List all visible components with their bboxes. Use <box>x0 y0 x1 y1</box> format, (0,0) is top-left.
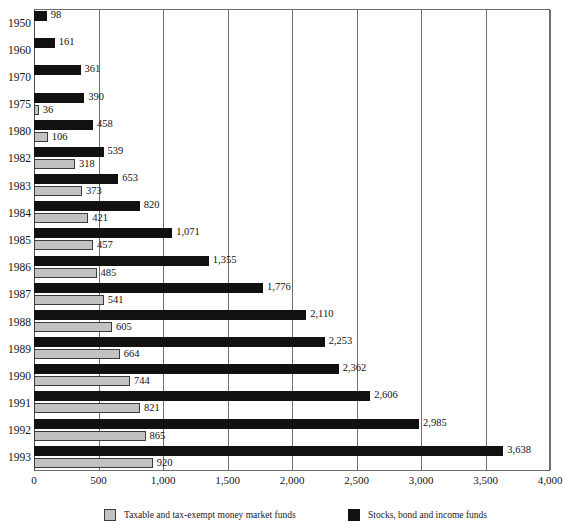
year-axis-label: 1985 <box>0 234 31 246</box>
bar-value-label: 2,253 <box>329 336 353 346</box>
bar-value-label: 1,355 <box>213 255 237 265</box>
legend-item-money-market: Taxable and tax-exempt money market fund… <box>104 509 296 521</box>
year-axis-label: 1950 <box>0 17 31 29</box>
bar-chart: 98161361390364581065393186533738204211,0… <box>0 0 563 531</box>
bar-stocks-bond-income <box>34 120 93 130</box>
bar-stocks-bond-income <box>34 147 104 157</box>
year-axis-label: 1980 <box>0 125 31 137</box>
bar-row: 1,355485 <box>34 254 550 281</box>
year-axis-label: 1989 <box>0 343 31 355</box>
bar-stocks-bond-income <box>34 65 81 75</box>
x-tick-label: 1,500 <box>215 474 240 487</box>
year-axis-label: 1984 <box>0 207 31 219</box>
bar-stocks-bond-income <box>34 93 84 103</box>
bar-stocks-bond-income <box>34 38 55 48</box>
bar-value-label: 36 <box>43 105 54 115</box>
bar-money-market <box>34 240 93 250</box>
bar-money-market <box>34 431 146 441</box>
bar-row: 361 <box>34 63 550 90</box>
x-tick-label: 1,000 <box>151 474 176 487</box>
bar-value-label: 161 <box>59 37 75 47</box>
bar-value-label: 106 <box>52 132 68 142</box>
bar-value-label: 539 <box>108 146 124 156</box>
bar-money-market <box>34 349 120 359</box>
bar-rows-layer: 98161361390364581065393186533738204211,0… <box>34 9 550 471</box>
bar-stocks-bond-income <box>34 283 263 293</box>
chart-legend: Taxable and tax-exempt money market fund… <box>0 505 563 527</box>
bar-value-label: 744 <box>134 376 150 386</box>
bar-row: 161 <box>34 36 550 63</box>
bar-stocks-bond-income <box>34 337 325 347</box>
bar-row: 820421 <box>34 199 550 226</box>
legend-label-stocks: Stocks, bond and income funds <box>368 510 487 521</box>
bar-value-label: 485 <box>101 268 117 278</box>
bar-value-label: 3,638 <box>507 445 531 455</box>
bar-row: 458106 <box>34 118 550 145</box>
bar-stocks-bond-income <box>34 228 172 238</box>
bar-row: 98 <box>34 9 550 36</box>
bar-stocks-bond-income <box>34 256 209 266</box>
bar-row: 3,638920 <box>34 444 550 471</box>
bar-money-market <box>34 322 112 332</box>
bar-money-market <box>34 376 130 386</box>
bar-value-label: 605 <box>116 322 132 332</box>
bar-row: 2,362744 <box>34 362 550 389</box>
bar-row: 1,071457 <box>34 226 550 253</box>
bar-value-label: 2,606 <box>374 390 398 400</box>
x-tick-label: 3,000 <box>409 474 434 487</box>
bar-value-label: 361 <box>85 64 101 74</box>
year-axis-label: 1990 <box>0 370 31 382</box>
year-axis-label: 1993 <box>0 451 31 463</box>
year-axis-label: 1986 <box>0 261 31 273</box>
bar-value-label: 664 <box>124 349 140 359</box>
bar-row: 2,985865 <box>34 417 550 444</box>
bar-row: 1,776541 <box>34 281 550 308</box>
x-tick-label: 4,000 <box>538 474 563 487</box>
clipped-chart-title <box>150 0 410 3</box>
bar-stocks-bond-income <box>34 446 503 456</box>
bar-value-label: 390 <box>88 92 104 102</box>
bar-value-label: 421 <box>92 213 108 223</box>
bar-stocks-bond-income <box>34 11 47 21</box>
x-axis-tick-labels: 05001,0001,5002,0002,5003,0003,5004,000 <box>0 474 563 490</box>
year-axis-label: 1988 <box>0 316 31 328</box>
year-axis-label: 1970 <box>0 71 31 83</box>
bar-row: 653373 <box>34 172 550 199</box>
x-tick-label: 2,500 <box>344 474 369 487</box>
bar-value-label: 820 <box>144 200 160 210</box>
year-axis-labels: 1950196019701975198019821983198419851986… <box>0 9 31 471</box>
gridline <box>550 10 551 470</box>
bar-value-label: 458 <box>97 119 113 129</box>
bar-value-label: 318 <box>79 159 95 169</box>
year-axis-label: 1991 <box>0 397 31 409</box>
bar-money-market <box>34 458 153 468</box>
bar-stocks-bond-income <box>34 174 118 184</box>
bar-value-label: 2,110 <box>310 309 333 319</box>
bar-row: 2,110605 <box>34 308 550 335</box>
legend-swatch-stocks-icon <box>348 509 360 521</box>
bar-stocks-bond-income <box>34 310 306 320</box>
year-axis-label: 1982 <box>0 152 31 164</box>
bar-value-label: 920 <box>157 458 173 468</box>
x-tick-label: 3,500 <box>473 474 498 487</box>
year-axis-label: 1987 <box>0 288 31 300</box>
bar-value-label: 541 <box>108 295 124 305</box>
legend-label-money-market: Taxable and tax-exempt money market fund… <box>124 510 296 521</box>
year-axis-label: 1975 <box>0 98 31 110</box>
year-axis-label: 1992 <box>0 424 31 436</box>
bar-value-label: 865 <box>150 431 166 441</box>
x-tick-label: 2,000 <box>280 474 305 487</box>
x-tick-label: 0 <box>31 474 37 487</box>
x-tick-label: 500 <box>90 474 107 487</box>
bar-row: 2,253664 <box>34 335 550 362</box>
bar-value-label: 1,776 <box>267 282 291 292</box>
bar-money-market <box>34 159 75 169</box>
bar-stocks-bond-income <box>34 391 370 401</box>
bar-money-market <box>34 403 140 413</box>
bar-row: 2,606821 <box>34 389 550 416</box>
bar-money-market <box>34 132 48 142</box>
legend-item-stocks: Stocks, bond and income funds <box>348 509 487 521</box>
bar-value-label: 2,985 <box>423 418 447 428</box>
bar-value-label: 457 <box>97 240 113 250</box>
year-axis-label: 1983 <box>0 180 31 192</box>
